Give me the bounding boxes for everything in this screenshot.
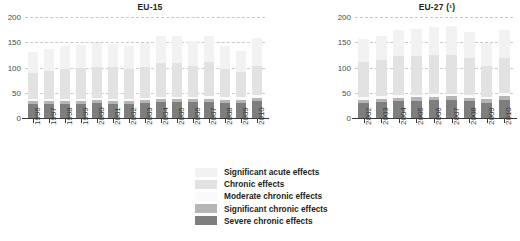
x-axis-tick-label: 2004 [399, 107, 408, 125]
chart-panel-eu15: EU-15 0501001502001996199719981999200020… [0, 0, 300, 170]
legend-swatch [195, 204, 217, 213]
bar-segment [44, 49, 54, 70]
bar-segment [220, 69, 230, 97]
bar-slot[interactable]: 2005 [169, 17, 185, 118]
stacked-bar[interactable] [358, 17, 369, 118]
chart-legend: Significant acute effectsChronic effects… [195, 166, 435, 227]
bar-slot[interactable]: 2002 [121, 17, 137, 118]
bar-segment [376, 60, 387, 96]
bar-slot[interactable]: 2009 [478, 17, 496, 118]
stacked-bar[interactable] [236, 17, 246, 118]
plot-area-eu27: 0501001502002002200320042005200620072008… [355, 17, 513, 118]
stacked-bar[interactable] [446, 17, 457, 118]
bar-slot[interactable]: 2003 [137, 17, 153, 118]
bar-slot[interactable]: 1998 [57, 17, 73, 118]
x-axis-tick-label: 2002 [364, 107, 373, 125]
stacked-bar[interactable] [124, 17, 134, 118]
stacked-bar[interactable] [28, 17, 38, 118]
bar-segment [172, 63, 182, 97]
bar-segment [108, 44, 118, 67]
bar-segment [140, 43, 150, 66]
stacked-bar[interactable] [481, 17, 492, 118]
bar-segment [429, 55, 440, 94]
bar-segment [446, 55, 457, 93]
bar-segment [220, 46, 230, 69]
stacked-bar[interactable] [429, 17, 440, 118]
bar-slot[interactable]: 2003 [373, 17, 391, 118]
bar-slot[interactable]: 1996 [25, 17, 41, 118]
bar-segment [76, 45, 86, 68]
stacked-bar[interactable] [60, 17, 70, 118]
bar-slot[interactable]: 2000 [89, 17, 105, 118]
bar-slot[interactable]: 2007 [201, 17, 217, 118]
y-axis-tick-label: 100 [338, 63, 351, 72]
stacked-bar[interactable] [464, 17, 475, 118]
legend-label: Significant acute effects [224, 168, 319, 176]
bar-slot[interactable]: 2006 [185, 17, 201, 118]
bar-segment [124, 46, 134, 68]
stacked-bar[interactable] [188, 17, 198, 118]
legend-item[interactable]: Severe chronic effects [195, 215, 435, 227]
bar-segment [446, 26, 457, 55]
chart-title-eu27: EU-27 (¹) [318, 2, 520, 12]
stacked-bar[interactable] [92, 17, 102, 118]
bar-slot[interactable]: 1999 [73, 17, 89, 118]
y-axis-tick-label: 200 [8, 13, 21, 22]
stacked-bar[interactable] [140, 17, 150, 118]
bar-segment [156, 63, 166, 97]
stacked-bar[interactable] [204, 17, 214, 118]
stacked-bar[interactable] [220, 17, 230, 118]
legend-item[interactable]: Chronic effects [195, 178, 435, 190]
bar-slot[interactable]: 2007 [443, 17, 461, 118]
legend-label: Chronic effects [224, 180, 284, 188]
bar-slot[interactable]: 2006 [425, 17, 443, 118]
bar-slot[interactable]: 2004 [390, 17, 408, 118]
x-axis-tick-label: 2005 [416, 107, 425, 125]
bar-slot[interactable]: 2004 [153, 17, 169, 118]
legend-label: Significant chronic effects [224, 205, 328, 213]
stacked-bar[interactable] [411, 17, 422, 118]
bar-slot[interactable]: 2008 [460, 17, 478, 118]
bar-segment [60, 46, 70, 68]
bar-segment [172, 36, 182, 63]
bar-group-eu15: 1996199719981999200020012002200320042005… [25, 17, 265, 118]
bar-slot[interactable]: 2009 [233, 17, 249, 118]
stacked-bar[interactable] [108, 17, 118, 118]
x-axis-tick-label: 2008 [469, 107, 478, 125]
bar-segment [464, 58, 475, 95]
bar-slot[interactable]: 2005 [408, 17, 426, 118]
bar-slot[interactable]: 2008 [217, 17, 233, 118]
legend-item[interactable]: Significant acute effects [195, 166, 435, 178]
stacked-bar[interactable] [393, 17, 404, 118]
bar-slot[interactable]: 1997 [41, 17, 57, 118]
legend-item[interactable]: Significant chronic effects [195, 203, 435, 215]
chart-title-eu15: EU-15 [0, 2, 276, 12]
bar-segment [76, 68, 86, 99]
bar-slot[interactable]: 2010 [249, 17, 265, 118]
bar-slot[interactable]: 2001 [105, 17, 121, 118]
stacked-bar[interactable] [156, 17, 166, 118]
bar-segment [204, 62, 214, 96]
stacked-bar[interactable] [499, 17, 510, 118]
legend-item[interactable]: Moderate chronic effects [195, 190, 435, 202]
plot-area-eu15: 0501001502001996199719981999200020012002… [25, 17, 265, 118]
stacked-bar[interactable] [44, 17, 54, 118]
stacked-bar[interactable] [76, 17, 86, 118]
bar-segment [188, 66, 198, 97]
stacked-bar[interactable] [172, 17, 182, 118]
x-axis-tick-label: 2010 [257, 107, 266, 125]
bar-segment [156, 36, 166, 63]
bar-segment [44, 71, 54, 100]
bar-segment [92, 43, 102, 66]
bar-segment [358, 62, 369, 97]
legend-swatch [195, 216, 217, 225]
stacked-bar[interactable] [376, 17, 387, 118]
stacked-bar[interactable] [252, 17, 262, 118]
bar-segment [411, 29, 422, 57]
bar-segment [464, 32, 475, 59]
bar-slot[interactable]: 2002 [355, 17, 373, 118]
legend-swatch [195, 192, 217, 201]
bar-slot[interactable]: 2010 [496, 17, 514, 118]
bar-segment [481, 43, 492, 66]
legend-swatch [195, 180, 217, 189]
